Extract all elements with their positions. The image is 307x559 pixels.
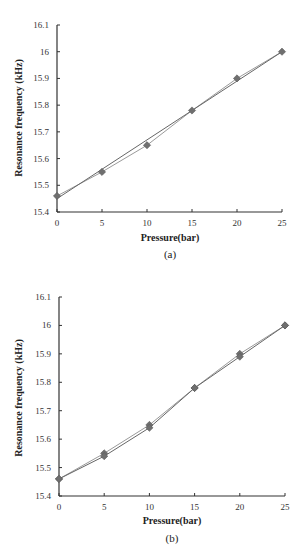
- chart-b-x-tick-label: 10: [145, 502, 155, 512]
- chart-b-data-point-marker: [55, 475, 62, 482]
- chart-b-x-tick-label: 5: [102, 502, 107, 512]
- chart-b-y-axis-title: Resonance frequency (kHz): [13, 339, 25, 457]
- chart-b-series-line: [59, 325, 285, 479]
- chart-b-y-tick-label: 15.9: [35, 349, 51, 359]
- chart-b-y-tick-label: 15.5: [35, 463, 51, 473]
- chart-b-y-tick-label: 15.7: [35, 406, 51, 416]
- chart-panel-b: 15.415.515.615.715.815.91616.10510152025…: [0, 0, 307, 559]
- chart-b-plot: 15.415.515.615.715.815.91616.10510152025…: [0, 0, 307, 559]
- chart-b-x-tick-label: 20: [235, 502, 245, 512]
- chart-b-x-tick-label: 0: [57, 502, 62, 512]
- chart-b-series: [55, 322, 288, 483]
- chart-b-x-axis-title: Pressure(bar): [143, 515, 202, 527]
- chart-b-y-tick-label: 16: [42, 320, 52, 330]
- chart-b-y-tick-label: 15.8: [35, 377, 51, 387]
- chart-b-x-tick-label: 15: [190, 502, 200, 512]
- chart-b-caption: (b): [166, 532, 179, 545]
- chart-b-data-point-marker: [281, 322, 288, 329]
- chart-b-x-tick-label: 25: [281, 502, 291, 512]
- chart-b-y-tick-label: 15.6: [35, 434, 51, 444]
- chart-b-axes: 15.415.515.615.715.815.91616.10510152025: [35, 292, 290, 512]
- chart-b-y-tick-label: 16.1: [35, 292, 51, 302]
- chart-b-y-tick-label: 15.4: [35, 491, 51, 501]
